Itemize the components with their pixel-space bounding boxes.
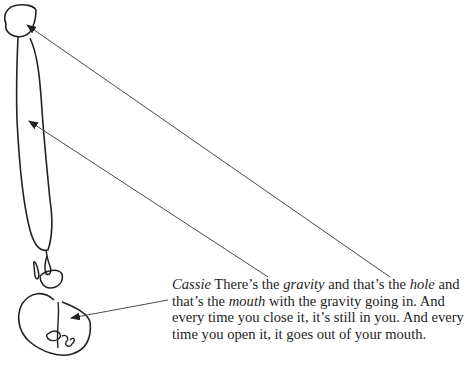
head-arrow: [27, 25, 390, 277]
head-outline: [5, 5, 36, 37]
gravity-arrow: [29, 121, 268, 277]
transcript-caption: Cassie There’s the gravity and that’s th…: [172, 276, 472, 342]
caption-text-1: There’s the: [211, 276, 283, 292]
ear-loop: [34, 262, 39, 279]
speaker-name: Cassie: [172, 276, 211, 292]
mouth-head-outline: [19, 294, 91, 356]
figure-page: Cassie There’s the gravity and that’s th…: [0, 0, 474, 381]
neck-loop: [40, 270, 62, 288]
gravity-tube: [17, 37, 52, 250]
mouth-arrow: [71, 300, 168, 318]
term-mouth: mouth: [229, 293, 265, 309]
mouth-squiggle: [47, 302, 74, 348]
term-gravity: gravity: [283, 276, 324, 292]
term-hole: hole: [410, 276, 435, 292]
caption-text-2: and that’s the: [325, 276, 410, 292]
